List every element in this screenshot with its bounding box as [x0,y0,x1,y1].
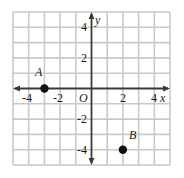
coordinate-grid-svg [0,0,184,178]
coordinate-plane-figure: A B O y x -4 -2 2 4 4 2 -2 -4 [0,0,184,178]
y-tick-label-neg4: -4 [77,144,87,156]
y-axis-arrow-up [89,12,95,19]
y-tick-label-neg2: -2 [77,113,87,125]
x-axis-label: x [160,92,165,104]
x-axis-arrow-left [13,86,20,92]
x-tick-label-neg2: -2 [53,92,63,104]
x-tick-label-neg4: -4 [22,92,32,104]
point-label-b: B [129,129,136,141]
y-axis-label: y [95,14,100,26]
y-tick-label-pos2: 2 [81,52,87,64]
x-tick-label-pos4: 4 [151,92,157,104]
data-point-b [119,146,127,154]
x-tick-label-pos2: 2 [120,92,126,104]
point-label-a: A [35,66,42,78]
y-axis-arrow-down [89,158,95,165]
data-point-a [40,84,48,92]
y-tick-label-pos4: 4 [81,21,87,33]
origin-label: O [79,92,88,104]
